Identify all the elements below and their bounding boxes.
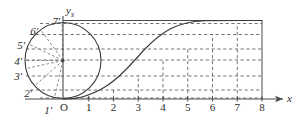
origin-label: O <box>60 102 68 113</box>
x-tick-label-3: 3 <box>136 102 142 113</box>
division-label-4: 4' <box>14 55 22 66</box>
y-axis-label-subscript: s <box>71 10 74 19</box>
x-tick-label-6: 6 <box>210 102 216 113</box>
radial-line-6 <box>42 31 64 61</box>
division-label-7: 7' <box>52 16 60 27</box>
x-tick-label-4: 4 <box>160 102 166 113</box>
cycloid-figure: ys x O 1 2 3 4 5 6 7 8 1' 2' 3' 4' 5' 6'… <box>0 0 305 127</box>
division-label-1: 1' <box>44 105 52 116</box>
division-label-3: 3' <box>14 71 22 82</box>
radial-line-5 <box>29 44 63 60</box>
division-label-2: 2' <box>24 88 32 99</box>
x-tick-label-8: 8 <box>259 102 265 113</box>
radial-line-2 <box>35 61 63 86</box>
x-tick-label-1: 1 <box>86 102 92 113</box>
vertical-ordinate-lines <box>89 24 238 100</box>
y-axis-label: ys <box>66 5 74 19</box>
division-label-6: 6' <box>30 26 38 37</box>
radial-line-3 <box>25 61 63 69</box>
x-axis-label: x <box>287 93 292 104</box>
radial-line-1 <box>55 61 64 98</box>
x-tick-label-5: 5 <box>185 102 191 113</box>
division-label-5: 5' <box>17 40 25 51</box>
x-tick-label-7: 7 <box>235 102 241 113</box>
x-tick-label-2: 2 <box>111 102 117 113</box>
